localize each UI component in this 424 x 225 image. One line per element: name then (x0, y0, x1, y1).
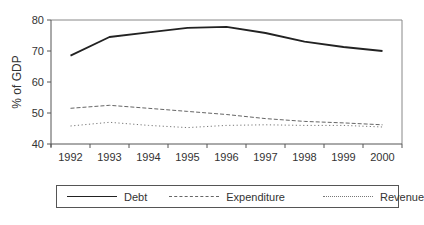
x-tick-label: 1994 (136, 151, 160, 163)
y-tick-label: 80 (32, 14, 44, 26)
dotted-line-icon (323, 196, 373, 197)
legend-label: Expenditure (226, 191, 285, 203)
solid-line-icon (67, 196, 117, 197)
x-tick-label: 2000 (370, 151, 394, 163)
legend: Debt Expenditure Revenue (56, 185, 399, 208)
dashed-line-icon (169, 196, 219, 197)
x-tick-label: 1997 (253, 151, 277, 163)
legend-item-expenditure: Expenditure (147, 191, 285, 203)
x-tick-label: 1993 (97, 151, 121, 163)
y-tick-label: 40 (32, 138, 44, 150)
axes: 4050607080199219931994199519961997199819… (10, 14, 402, 163)
y-tick-label: 60 (32, 76, 44, 88)
y-tick-label: 50 (32, 107, 44, 119)
x-tick-label: 1996 (214, 151, 238, 163)
x-tick-label: 1995 (175, 151, 199, 163)
x-tick-label: 1998 (292, 151, 316, 163)
legend-item-revenue: Revenue (285, 191, 424, 203)
plot-lines (71, 27, 383, 128)
y-axis-title: % of GDP (10, 55, 24, 108)
series-debt (71, 27, 383, 56)
x-tick-label: 1999 (331, 151, 355, 163)
series-expenditure (71, 105, 383, 125)
legend-label: Debt (124, 191, 147, 203)
legend-label: Revenue (380, 191, 424, 203)
x-tick-label: 1992 (58, 151, 82, 163)
legend-item-debt: Debt (57, 191, 147, 203)
y-tick-label: 70 (32, 45, 44, 57)
